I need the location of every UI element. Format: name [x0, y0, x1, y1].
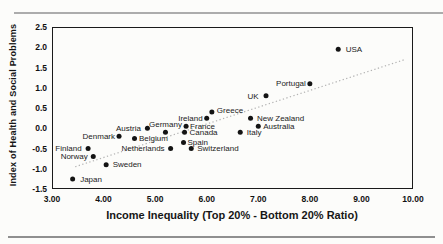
x-tick-4-00: 4.00 [87, 194, 121, 204]
data-point-denmark [117, 134, 122, 139]
y-tick--1-5: -1.5 [0, 184, 47, 194]
x-tick-9-00: 9.00 [344, 194, 378, 204]
point-label-japan: Japan [80, 175, 102, 184]
data-point-new-zealand [248, 116, 253, 121]
point-label-switzerland: Switzerland [197, 144, 238, 153]
data-point-spain [181, 140, 186, 145]
data-point-belgium [132, 136, 137, 141]
y-tick-0-5: 0.5 [0, 103, 47, 113]
point-label-belgium: Belgium [139, 134, 168, 143]
data-point-greece [209, 110, 214, 115]
y-tick-2-5: 2.5 [0, 22, 47, 32]
point-label-austria: Austria [116, 124, 141, 133]
point-label-uk: UK [247, 92, 259, 101]
point-label-denmark: Denmark [83, 132, 116, 141]
data-point-norway [91, 154, 96, 159]
data-point-italy [238, 130, 243, 135]
data-point-portugal [307, 81, 312, 86]
point-label-usa: USA [346, 45, 363, 54]
point-label-greece: Greece [217, 106, 244, 115]
data-point-ireland [204, 116, 209, 121]
data-point-germany [163, 130, 168, 135]
x-tick-3-00: 3.00 [35, 194, 69, 204]
point-label-norway: Norway [61, 152, 88, 161]
x-tick-7-00: 7.00 [241, 194, 275, 204]
y-tick-2-0: 2.0 [0, 42, 47, 52]
x-tick-6-00: 6.00 [190, 194, 224, 204]
point-label-netherlands: Netherlands [121, 144, 164, 153]
y-tick--1-0: -1.0 [0, 164, 47, 174]
x-tick-10-00: 10.00 [396, 194, 430, 204]
data-point-australia [256, 124, 261, 129]
point-label-canada: Canada [190, 128, 219, 137]
x-tick-5-00: 5.00 [138, 194, 172, 204]
y-tick-1-5: 1.5 [0, 63, 47, 73]
data-point-france [184, 124, 189, 129]
x-tick-8-00: 8.00 [293, 194, 327, 204]
data-point-canada [182, 130, 187, 135]
data-point-japan [70, 176, 75, 181]
point-label-italy: Italy [247, 128, 262, 137]
y-tick--0-5: -0.5 [0, 144, 47, 154]
point-label-germany: Germany [149, 120, 182, 129]
bottom-divider-line [8, 236, 435, 238]
y-tick-1-0: 1.0 [0, 83, 47, 93]
data-point-sweden [104, 162, 109, 167]
point-label-australia: Australia [263, 122, 295, 131]
scatter-plot-figure: Index of Health and Social Problems Japa… [0, 0, 443, 244]
point-label-ireland: Ireland [178, 114, 202, 123]
x-axis-title: Income Inequality (Top 20% - Bottom 20% … [106, 209, 358, 221]
data-point-usa [336, 47, 341, 52]
data-point-netherlands [168, 146, 173, 151]
data-point-switzerland [189, 146, 194, 151]
plot-canvas: JapanFinlandNorwaySwedenDenmarkBelgiumAu… [0, 0, 443, 244]
data-point-finland [86, 146, 91, 151]
point-label-portugal: Portugal [276, 79, 306, 88]
y-tick-0-0: 0.0 [0, 123, 47, 133]
data-point-uk [264, 93, 269, 98]
point-label-sweden: Sweden [113, 160, 142, 169]
